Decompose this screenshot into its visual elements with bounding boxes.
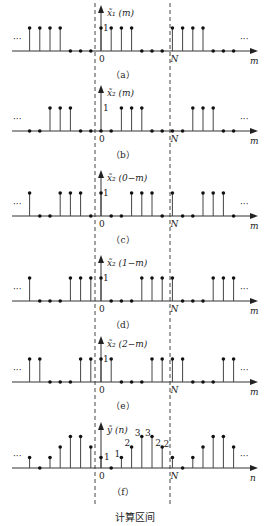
sample-dot (140, 276, 144, 280)
sample-dot (211, 106, 215, 110)
axis-arrow-icon (98, 170, 104, 178)
sample-dot (120, 299, 124, 303)
value-label: 2 (163, 439, 169, 449)
sample-dot (69, 106, 73, 110)
sample-dot (181, 26, 185, 30)
sample-dot (171, 456, 175, 460)
sample-dot (171, 276, 175, 280)
sample-dot (211, 49, 215, 53)
sample-dot (222, 49, 226, 53)
sample-dot (171, 191, 175, 195)
axis-arrow-icon (250, 379, 258, 385)
sample-dot (181, 466, 185, 470)
sample-dot (191, 214, 195, 218)
sample-dot (150, 129, 154, 133)
sample-dot (89, 357, 93, 361)
sample-dot (211, 276, 215, 280)
sample-dot (160, 49, 164, 53)
value-label: 1 (104, 452, 110, 462)
N-label: N (169, 385, 179, 395)
sample-dot (160, 214, 164, 218)
sample-dot (69, 191, 73, 195)
axis-arrow-icon (250, 465, 258, 471)
sample-dot (79, 49, 83, 53)
sample-dot (38, 466, 42, 470)
sample-dot (222, 357, 226, 361)
sample-dot (58, 299, 62, 303)
N-label: N (169, 304, 179, 314)
sample-dot (79, 129, 83, 133)
panel-ylabel: x̃₂ (2−m) (107, 339, 148, 349)
panel-caption: （f） (112, 487, 133, 497)
sample-dot (38, 214, 42, 218)
sample-dot (232, 357, 236, 361)
sample-dot (201, 191, 205, 195)
sample-dot (89, 49, 93, 53)
sample-dot (120, 214, 124, 218)
unit-one-label: 1 (103, 103, 109, 113)
axis-arrow-icon (250, 213, 258, 219)
sample-dot (201, 445, 205, 449)
unit-one-label: 1 (103, 23, 109, 33)
sample-dot (191, 26, 195, 30)
sample-dot (181, 299, 185, 303)
unit-one-label: 1 (103, 188, 109, 198)
sample-dot (140, 49, 144, 53)
sample-dot (48, 299, 52, 303)
sample-dot (48, 26, 52, 30)
sample-dot (171, 129, 175, 133)
sample-dot (130, 380, 134, 384)
sample-dot (38, 357, 42, 361)
axis-arrow-icon (98, 336, 104, 344)
sample-dot (99, 456, 103, 460)
sample-dot (191, 380, 195, 384)
sample-dot (201, 26, 205, 30)
sample-dot (120, 380, 124, 384)
ellipsis-left: ··· (13, 199, 22, 209)
N-label: N (169, 54, 179, 64)
N-label: N (169, 471, 179, 481)
sample-dot (99, 129, 103, 133)
value-label: 2 (155, 438, 161, 448)
sample-dot (160, 276, 164, 280)
panel-caption: （a） (111, 70, 134, 80)
sample-dot (28, 357, 32, 361)
axis-arrow-icon (250, 298, 258, 304)
sample-dot (201, 106, 205, 110)
sample-dot (38, 299, 42, 303)
sample-dot (79, 276, 83, 280)
zero-label: 0 (99, 385, 105, 395)
ellipsis-left: ··· (13, 284, 22, 294)
axis-var-label: n (250, 473, 256, 483)
sample-dot (109, 129, 113, 133)
sample-dot (140, 106, 144, 110)
sample-dot (201, 299, 205, 303)
sample-dot (109, 466, 113, 470)
sample-dot (150, 435, 154, 439)
sample-dot (232, 49, 236, 53)
sample-dot (211, 380, 215, 384)
value-label: 3 (135, 428, 141, 438)
sample-dot (140, 191, 144, 195)
sample-dot (58, 26, 62, 30)
axis-arrow-icon (98, 5, 104, 13)
value-label: 3 (145, 428, 151, 438)
sample-dot (28, 26, 32, 30)
zero-label: 0 (99, 304, 105, 314)
sample-dot (160, 357, 164, 361)
sample-dot (48, 106, 52, 110)
sample-dot (222, 276, 226, 280)
axis-arrow-icon (250, 128, 258, 134)
sample-dot (130, 191, 134, 195)
sample-dot (28, 276, 32, 280)
sample-dot (211, 435, 215, 439)
sample-dot (181, 357, 185, 361)
ellipsis-right: ··· (240, 451, 249, 461)
zero-label: 0 (99, 471, 105, 481)
sample-dot (38, 26, 42, 30)
sample-dot (120, 106, 124, 110)
sample-dot (28, 191, 32, 195)
sample-dot (28, 129, 32, 133)
ellipsis-right: ··· (240, 199, 249, 209)
sample-dot (48, 456, 52, 460)
